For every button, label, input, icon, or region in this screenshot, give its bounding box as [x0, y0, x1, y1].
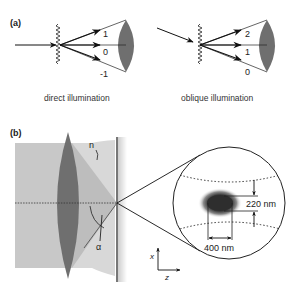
magnified-focus-view: 220 nm 400 nm: [170, 147, 290, 259]
objective-lens-icon: [118, 20, 134, 72]
order-label: 1: [103, 29, 108, 39]
refractive-index-label: n: [89, 140, 94, 150]
caption-oblique: oblique illumination: [181, 93, 254, 103]
axis-z-label: z: [164, 273, 169, 282]
caption-direct: direct illumination: [44, 93, 110, 103]
order-label: 2: [245, 29, 250, 39]
direct-illumination-diagram: 1 0 -1 direct illumination: [15, 20, 134, 103]
oblique-illumination-diagram: 2 1 0 oblique illumination: [157, 20, 275, 103]
order-label: 1: [245, 47, 250, 57]
order-label: -1: [100, 69, 108, 79]
panel-b-label: (b): [10, 128, 22, 138]
grating-icon: [56, 24, 60, 64]
order-1-arrow: [60, 30, 100, 45]
panel-a-label: (a): [10, 18, 21, 28]
focusing-diagram: n α: [15, 132, 200, 282]
horizontal-dimension-label: 400 nm: [204, 243, 234, 253]
figure: (a) 1 0 -1 direct illumination 2 1 0 obl…: [0, 0, 298, 290]
order-label: 0: [245, 67, 250, 77]
angle-label: α: [96, 242, 101, 252]
objective-lens-icon: [259, 20, 275, 72]
vertical-dimension-label: 220 nm: [246, 199, 276, 209]
order-2-arrow: [200, 30, 241, 45]
order-label: 0: [103, 47, 108, 57]
axes-indicator: x z: [149, 248, 180, 282]
order-minus1-arrow: [60, 45, 100, 60]
incident-beam-arrow: [157, 28, 193, 42]
axis-x-label: x: [149, 252, 155, 261]
order-0-arrow: [200, 45, 241, 60]
